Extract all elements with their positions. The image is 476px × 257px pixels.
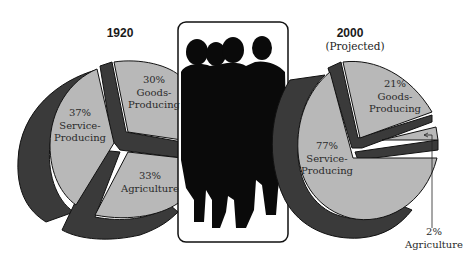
people-silhouette-icon — [181, 36, 287, 228]
pie-1920-label-agri: 33% Agriculture — [118, 170, 182, 195]
pie-2000-subtitle: (Projected) — [320, 40, 390, 52]
pie-2000-label-agri: 2% Agriculture — [402, 226, 466, 251]
pie-2000-title: 2000 — [325, 26, 375, 40]
pie-2000-label-service: 77% Service- Producing — [297, 140, 357, 178]
pie-1920-label-goods: 30% Goods- Producing — [124, 74, 184, 112]
people-silhouette-panel — [178, 22, 288, 242]
pie-1920-label-service: 37% Service- Producing — [52, 107, 108, 145]
pie-1920-title: 1920 — [100, 26, 140, 40]
pie-2000-label-goods: 21% Goods- Producing — [365, 78, 425, 116]
